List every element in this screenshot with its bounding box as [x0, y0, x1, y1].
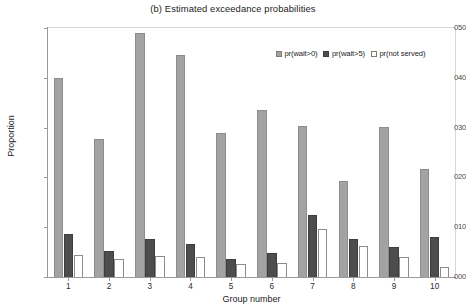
bar [257, 110, 267, 277]
chart-figure: (b) Estimated exceedance probabilities 0… [0, 0, 466, 308]
legend-swatch [323, 51, 329, 57]
chart-legend: pr(wait>0)pr(wait>5)pr(not served) [276, 47, 425, 60]
x-tick-mark [68, 278, 69, 281]
bar [74, 255, 84, 277]
x-tick-mark [272, 278, 273, 281]
bar [389, 247, 399, 277]
bar [318, 229, 328, 277]
chart-title: (b) Estimated exceedance probabilities [0, 3, 466, 14]
bar [236, 264, 246, 277]
legend-item: pr(wait>5) [323, 49, 364, 58]
bar [308, 215, 318, 277]
y-tick-mark [44, 128, 47, 129]
plot-area [48, 28, 455, 277]
x-tick-label: 4 [170, 282, 210, 291]
x-tick-label: 6 [252, 282, 292, 291]
bar [298, 126, 308, 277]
bar [135, 33, 145, 277]
bar [94, 139, 104, 277]
bar [104, 251, 114, 277]
x-tick-label: 8 [333, 282, 373, 291]
bar [145, 239, 155, 277]
legend-label: pr(not served) [379, 49, 425, 58]
y-tick-mark [44, 177, 47, 178]
bar [64, 234, 74, 277]
bar [430, 237, 440, 277]
bar [440, 267, 450, 277]
x-tick-label: 7 [293, 282, 333, 291]
x-tick-mark [313, 278, 314, 281]
legend-label: pr(wait>0) [285, 49, 318, 58]
y-tick-mark [44, 277, 47, 278]
x-tick-label: 3 [130, 282, 170, 291]
x-tick-label: 9 [374, 282, 414, 291]
bar [420, 169, 430, 277]
x-tick-mark [231, 278, 232, 281]
bar [54, 78, 64, 277]
y-axis-label: Proportion [6, 96, 16, 176]
bar [349, 239, 359, 277]
bar [379, 127, 389, 277]
bar [339, 181, 349, 277]
legend-item: pr(not served) [371, 49, 425, 58]
legend-swatch [276, 51, 282, 57]
bar [226, 259, 236, 277]
bar [216, 133, 226, 277]
x-tick-label: 5 [211, 282, 251, 291]
bar [176, 55, 186, 277]
bar [196, 257, 206, 277]
x-tick-mark [150, 278, 151, 281]
bar [186, 244, 196, 277]
bar [267, 253, 277, 277]
x-tick-label: 1 [48, 282, 88, 291]
x-axis-label: Group number [47, 294, 456, 304]
bar [114, 259, 124, 277]
bar [399, 257, 409, 277]
bar [155, 256, 165, 277]
x-tick-mark [394, 278, 395, 281]
legend-label: pr(wait>5) [332, 49, 365, 58]
x-tick-label: 2 [89, 282, 129, 291]
x-tick-mark [435, 278, 436, 281]
x-tick-label: 10 [415, 282, 455, 291]
y-tick-mark [44, 227, 47, 228]
x-tick-mark [190, 278, 191, 281]
legend-swatch [371, 51, 377, 57]
bar [277, 263, 287, 277]
legend-item: pr(wait>0) [276, 49, 317, 58]
x-tick-mark [353, 278, 354, 281]
y-tick-mark [44, 28, 47, 29]
y-tick-mark [44, 78, 47, 79]
x-tick-mark [109, 278, 110, 281]
bar [359, 246, 369, 277]
